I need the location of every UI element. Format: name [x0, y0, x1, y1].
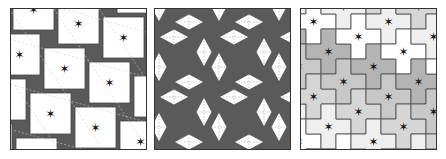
star-icon: ✶ [90, 121, 100, 135]
star-icon: ✶ [45, 107, 55, 121]
panel-a-square-tiling: ✶✶✶✶✶✶✶✶✶✶✶✶✶✶✶✶✶✶✶✶✶✶✶✶✶✶✶✶✶✶✶✶✶✶✶✶✶✶✶✶… [10, 8, 147, 150]
star-icon: ✶ [59, 62, 69, 76]
star-icon: ✶ [383, 15, 393, 29]
star-icon: ✶ [353, 30, 363, 44]
star-icon: ✶ [323, 45, 333, 59]
panel-b-rhombus-tiling [154, 8, 291, 150]
star-icon: ✶ [398, 120, 408, 134]
star-icon: ✶ [135, 135, 145, 149]
star-icon: ✶ [428, 30, 437, 44]
star-icon: ✶ [413, 9, 423, 14]
star-icon: ✶ [14, 48, 24, 62]
star-icon: ✶ [118, 31, 128, 45]
square-tiling-graphic: ✶✶✶✶✶✶✶✶✶✶✶✶✶✶✶✶✶✶✶✶✶✶✶✶✶✶✶✶✶✶✶✶✶✶✶✶✶✶✶✶… [11, 9, 147, 150]
star-icon: ✶ [28, 9, 38, 17]
star-icon: ✶ [338, 9, 348, 14]
star-icon: ✶ [398, 45, 408, 59]
star-icon: ✶ [301, 60, 304, 74]
star-icon: ✶ [301, 135, 304, 149]
star-icon: ✶ [368, 60, 378, 74]
star-icon: ✶ [73, 17, 83, 31]
star-icon: ✶ [413, 150, 423, 151]
rhombus-tiling-graphic [155, 9, 291, 150]
star-icon: ✶ [323, 120, 333, 134]
star-icon: ✶ [104, 76, 114, 90]
panel-c-cross-tiling: ✶✶✶✶✶✶✶✶✶✶✶✶✶✶✶✶✶✶✶✶✶✶✶✶✶✶✶✶✶✶✶✶✶✶✶✶✶✶✶✶… [300, 8, 437, 150]
star-icon: ✶ [338, 150, 348, 151]
star-icon: ✶ [368, 135, 378, 149]
star-icon: ✶ [428, 105, 437, 119]
star-icon: ✶ [383, 90, 393, 104]
star-icon: ✶ [308, 90, 318, 104]
cross-tiling-graphic: ✶✶✶✶✶✶✶✶✶✶✶✶✶✶✶✶✶✶✶✶✶✶✶✶✶✶✶✶✶✶✶✶✶✶✶✶✶✶✶✶… [301, 9, 437, 150]
star-icon: ✶ [308, 15, 318, 29]
star-icon: ✶ [338, 75, 348, 89]
star-icon: ✶ [413, 75, 423, 89]
star-icon: ✶ [353, 105, 363, 119]
